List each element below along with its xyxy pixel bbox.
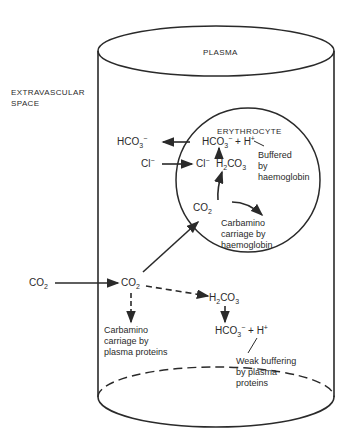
formula-hco3-h-rbc: HCO3− + H+ [202, 136, 255, 147]
diagram-drawing [0, 0, 351, 440]
formula-cl-external: Cl− [141, 158, 155, 169]
arrow-co2-to-carbamino-rbc [232, 202, 262, 215]
cylinder-bottom-back [98, 367, 334, 397]
formula-co2-plasma: CO2 [121, 277, 140, 288]
arrow-co2-to-rbc [143, 222, 198, 272]
arrow-co2-to-h2co3-rbc [218, 172, 222, 200]
cylinder-bottom-front [98, 397, 334, 427]
formula-co2-rbc: CO2 [193, 202, 212, 213]
label-extravascular: EXTRAVASCULAR [11, 87, 85, 98]
note-carbamino-haemoglobin: Carbamino carriage by haemoglobin [221, 218, 273, 251]
formula-hco3-external: HCO3− [117, 136, 147, 147]
label-space: SPACE [11, 98, 40, 109]
note-carbamino-plasma-proteins: Carbamino carriage by plasma proteins [104, 325, 168, 358]
arrow-co2-to-h2co3-plasma [146, 286, 208, 296]
formula-h2co3-plasma: H2CO3 [209, 292, 239, 303]
note-buffered-by-haemoglobin: Buffered by haemoglobin [258, 150, 310, 183]
formula-cl-rbc: Cl− [196, 158, 210, 169]
pointer-buffered [254, 141, 264, 146]
pointer-weak-buffering [248, 338, 257, 353]
label-plasma: PLASMA [203, 47, 238, 58]
formula-hco3-h-plasma: HCO3− + H+ [215, 325, 268, 336]
formula-co2-external: CO2 [29, 277, 48, 288]
formula-h2co3-rbc: H2CO3 [216, 158, 246, 169]
note-weak-buffering: Weak buffering by plasma proteins [236, 356, 296, 389]
